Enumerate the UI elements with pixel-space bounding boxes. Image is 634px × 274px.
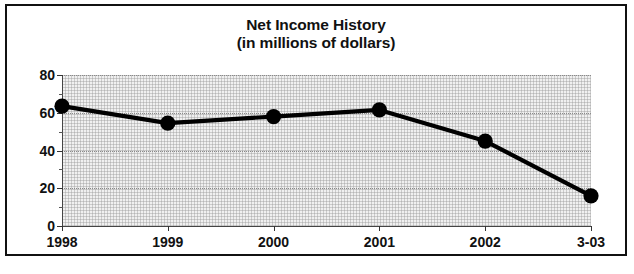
gridline-y — [62, 151, 591, 152]
x-tick-label: 2001 — [344, 234, 414, 250]
x-tick-label: 3-03 — [556, 234, 626, 250]
x-tick-label: 2002 — [450, 234, 520, 250]
gridline-y — [62, 75, 591, 76]
x-tick — [274, 226, 275, 231]
chart-subtitle: (in millions of dollars) — [7, 34, 625, 52]
chart-frame: Net Income History (in millions of dolla… — [5, 4, 627, 256]
y-tick — [57, 188, 63, 189]
gridline-y — [62, 113, 591, 114]
y-minor-tick — [59, 207, 63, 208]
y-tick-label: 80 — [11, 67, 55, 83]
chart-title-block: Net Income History (in millions of dolla… — [7, 16, 625, 53]
y-minor-tick — [59, 169, 63, 170]
x-tick-label: 1999 — [133, 234, 203, 250]
y-tick — [57, 75, 63, 76]
y-tick-label: 60 — [11, 105, 55, 121]
y-minor-tick — [59, 132, 63, 133]
y-tick-label: 20 — [11, 180, 55, 196]
x-tick — [485, 226, 486, 231]
gridline-y — [62, 188, 591, 189]
y-tick-label: 0 — [11, 218, 55, 234]
x-tick — [168, 226, 169, 231]
x-axis-line — [62, 226, 592, 227]
y-tick — [57, 151, 63, 152]
x-tick — [62, 226, 63, 231]
x-tick-label: 2000 — [239, 234, 309, 250]
y-axis-labels: 020406080 — [7, 6, 55, 254]
chart-figure: Net Income History (in millions of dolla… — [0, 0, 634, 274]
x-tick — [591, 226, 592, 231]
x-tick — [379, 226, 380, 231]
y-tick — [57, 113, 63, 114]
x-tick-label: 1998 — [27, 234, 97, 250]
page-title: Net Income History — [7, 16, 625, 34]
y-tick-label: 40 — [11, 143, 55, 159]
y-minor-tick — [59, 94, 63, 95]
